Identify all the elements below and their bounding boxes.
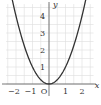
y-tick-label: 2 (40, 46, 45, 55)
y-tick-label: 4 (40, 12, 45, 21)
x-tick-label: 1 (63, 87, 68, 96)
y-tick-label: 1 (40, 63, 45, 72)
origin-label: O (41, 87, 48, 96)
grid-lines (6, 4, 93, 84)
parabola-chart: −2−1121234Oxy (0, 0, 101, 105)
y-tick-label: 3 (40, 29, 45, 38)
x-tick-label: −2 (8, 87, 20, 96)
axis-labels: −2−1121234Oxy (8, 0, 100, 96)
x-tick-label: −1 (25, 87, 37, 96)
x-axis-label: x (95, 81, 100, 90)
y-axis-label: y (52, 0, 58, 9)
x-tick-label: 2 (79, 87, 84, 96)
